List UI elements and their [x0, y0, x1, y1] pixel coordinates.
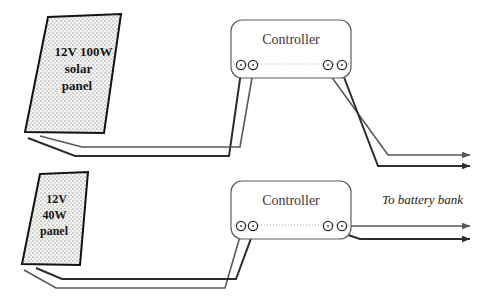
controller-top-body [231, 20, 351, 78]
solar-panel-bottom[interactable]: 12V 40W panel [22, 172, 88, 265]
panel-bottom-line-2: 40W [43, 208, 67, 222]
controller-top-label: Controller [262, 32, 320, 47]
terminal-top-out-negative-screw [341, 64, 343, 66]
panel-top-line-1: 12V 100W [55, 44, 113, 59]
terminal-bottom-out-negative-screw [341, 225, 343, 227]
controller-bottom-label: Controller [262, 193, 320, 208]
terminal-top-out-positive-screw [327, 64, 329, 66]
terminal-bottom-in-negative-screw [252, 225, 254, 227]
controller-top[interactable]: Controller [231, 20, 351, 78]
terminal-bottom-in-positive-screw [240, 225, 242, 227]
panel-top-line-3: panel [62, 78, 93, 93]
panel-bottom-line-3: panel [40, 224, 69, 238]
terminal-top-in-positive-screw [240, 64, 242, 66]
terminal-bottom-out-positive-screw [327, 225, 329, 227]
terminal-top-in-negative-screw [252, 64, 254, 66]
wire-bottom-out-negative [342, 233, 470, 239]
diagram-canvas: 12V 100W solar panel 12V 40W panel Contr… [0, 0, 489, 307]
controller-bottom-body [231, 181, 351, 239]
solar-panel-top[interactable]: 12V 100W solar panel [25, 14, 121, 133]
wire-top-out-positive [328, 72, 470, 155]
panel-top-line-2: solar [65, 61, 93, 76]
solar-wiring-diagram: 12V 100W solar panel 12V 40W panel Contr… [0, 0, 489, 307]
controller-bottom[interactable]: Controller [231, 181, 351, 239]
to-battery-bank-label: To battery bank [382, 192, 463, 207]
panel-bottom-line-1: 12V [46, 192, 67, 206]
